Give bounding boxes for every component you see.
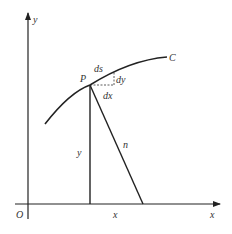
dy-label: dy [116, 74, 126, 85]
abscissa-label: x [112, 209, 118, 220]
dx-label: dx [103, 90, 113, 101]
ds-label: ds [94, 63, 103, 74]
curve-label: C [169, 52, 176, 63]
y-axis-label: y [32, 14, 38, 25]
normal-line [90, 85, 143, 204]
ordinate-label: y [76, 147, 82, 158]
x-axis-label: x [209, 209, 215, 220]
origin-label: O [16, 209, 23, 220]
point-p-label: P [79, 73, 86, 84]
arc-length-diagram: y x O C P ds dy dx y n x [0, 0, 232, 234]
normal-label: n [123, 139, 128, 150]
diagram-canvas: y x O C P ds dy dx y n x [0, 0, 232, 234]
